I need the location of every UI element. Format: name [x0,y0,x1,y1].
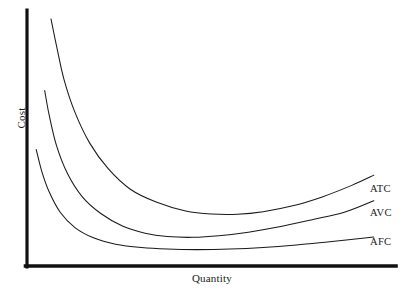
curve-atc [51,19,374,215]
curve-label-avc: AVC [370,207,392,218]
axes-group [26,10,397,267]
chart-canvas [0,0,406,295]
x-axis-label: Quantity [180,272,244,284]
curve-label-afc: AFC [370,236,391,247]
y-axis-label: Cost [15,99,27,137]
cost-curves-figure: Cost Quantity ATC AVC AFC [0,0,406,295]
curves-group [36,19,374,250]
curve-afc [36,150,374,250]
curve-label-atc: ATC [370,183,391,194]
curve-avc [45,91,374,238]
